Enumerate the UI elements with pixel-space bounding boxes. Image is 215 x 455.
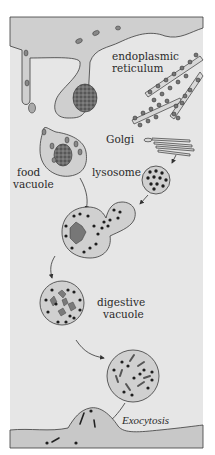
food-particle [54, 144, 72, 166]
food-vacuole-label-line2: vacuole [12, 178, 54, 190]
digestion-diagram: endoplasmic reticulum Golgi food vacuole… [0, 0, 215, 455]
digestive-vacuole-label-line2: vacuole [102, 308, 144, 320]
golgi-label: Golgi [106, 133, 135, 145]
lysosome-label: lysosome [92, 166, 141, 178]
engulfed-particle [73, 84, 97, 112]
free-vesicle [29, 103, 36, 113]
exocytosis-label: Exocytosis [121, 414, 169, 426]
food-vacuole-label-line1: food [17, 166, 41, 178]
digestive-vacuole-label-line1: digestive [97, 296, 145, 308]
er-label-line1: endoplasmic [112, 50, 179, 62]
digestive-vacuole [40, 281, 84, 325]
er-label-line2: reticulum [112, 62, 164, 74]
